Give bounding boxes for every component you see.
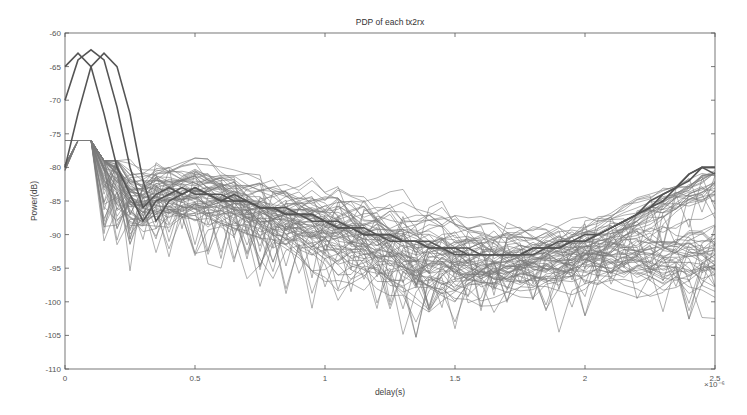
chart-title: PDP of each tx2rx xyxy=(356,17,425,27)
y-axis-label: Power(dB) xyxy=(29,181,39,221)
x-axis-ticks: 00.511.522.5 xyxy=(63,33,721,383)
y-tick-label: -95 xyxy=(49,264,61,273)
x-tick-label: 1 xyxy=(323,374,328,383)
pdp-curve xyxy=(65,141,715,313)
pdp-curve xyxy=(65,141,715,300)
x-tick-label: 2 xyxy=(583,374,588,383)
y-tick-label: -70 xyxy=(49,96,61,105)
pdp-curves xyxy=(65,50,715,338)
y-tick-label: -60 xyxy=(49,29,61,38)
pdp-curve xyxy=(65,141,715,313)
x-axis-exponent: ×10⁻⁶ xyxy=(704,380,725,389)
y-tick-label: -65 xyxy=(49,63,61,72)
x-tick-label: 0 xyxy=(63,374,68,383)
x-tick-label: 1.5 xyxy=(449,374,461,383)
pdp-figure: PDP of each tx2rx 00.511.522.5 -110-105-… xyxy=(0,0,747,415)
pdp-curve xyxy=(65,141,715,303)
y-tick-label: -90 xyxy=(49,231,61,240)
x-axis-label: delay(s) xyxy=(375,387,405,397)
y-tick-label: -110 xyxy=(46,365,62,374)
y-tick-label: -100 xyxy=(45,298,62,307)
y-tick-label: -85 xyxy=(49,197,61,206)
pdp-curve xyxy=(65,141,715,316)
pdp-curve-direct-path-3 xyxy=(65,53,715,255)
x-tick-label: 0.5 xyxy=(189,374,201,383)
y-tick-label: -75 xyxy=(49,130,61,139)
pdp-curve xyxy=(65,141,715,303)
y-tick-label: -105 xyxy=(45,331,62,340)
y-tick-label: -80 xyxy=(49,163,61,172)
